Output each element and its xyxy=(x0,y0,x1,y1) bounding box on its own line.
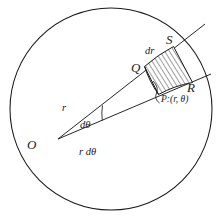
label-point-S: S xyxy=(166,33,173,46)
label-point-Q: Q xyxy=(131,61,140,74)
label-point-R: R xyxy=(187,81,195,94)
angle-arc-dtheta xyxy=(102,106,103,121)
main-circle xyxy=(10,8,212,210)
label-radius-r: r xyxy=(62,103,66,114)
label-point-P-coordinates: P:(r, θ) xyxy=(161,95,188,105)
figure-canvas xyxy=(0,0,223,221)
label-d-theta: dθ xyxy=(80,120,90,131)
label-origin-O: O xyxy=(27,138,36,151)
polar-area-element-figure: O r dθ r dθ Q dr S R P:(r, θ) xyxy=(0,0,223,221)
label-dr: dr xyxy=(145,46,154,57)
label-arc-length-r-dtheta: r dθ xyxy=(79,147,96,158)
